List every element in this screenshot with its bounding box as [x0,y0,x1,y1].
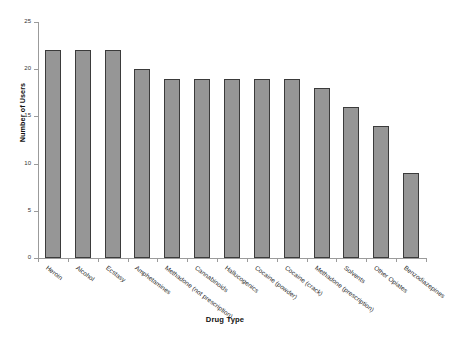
x-axis-category-label: Ecstasy [104,264,126,283]
plot-area: 0510152025 [38,22,426,258]
x-axis-tick [366,258,367,262]
x-axis-tick [277,258,278,262]
bar [75,50,91,258]
bar [314,88,330,258]
x-axis-tick [38,258,39,262]
y-axis-tick: 10 [34,164,38,165]
x-axis-category-label: Solvents [343,264,367,285]
y-axis-tick-label: 20 [24,65,31,71]
x-axis-tick [157,258,158,262]
x-axis-tick [217,258,218,262]
x-axis-tick [336,258,337,262]
bar [254,79,270,258]
y-axis-tick: 25 [34,22,38,23]
y-axis-tick-label: 10 [24,160,31,166]
bar [284,79,300,258]
y-axis-tick: 15 [34,116,38,117]
x-axis-title: Drug Type [150,315,300,324]
x-axis-tick [307,258,308,262]
y-axis-tick-label: 0 [28,254,31,260]
y-axis-tick-label: 25 [24,18,31,24]
x-axis-tick [128,258,129,262]
x-axis-tick [187,258,188,262]
x-axis-tick [426,258,427,262]
bar [194,79,210,258]
y-axis-line [38,22,39,258]
bar [224,79,240,258]
x-axis-line [38,258,426,259]
bar [403,173,419,258]
y-axis-tick-label: 5 [28,207,31,213]
bar [373,126,389,258]
y-axis-tick: 5 [34,211,38,212]
bar [164,79,180,258]
bar-chart: Number of Users 0510152025 HeroinAlcohol… [0,0,452,340]
bar [134,69,150,258]
bar [45,50,61,258]
bar [343,107,359,258]
x-axis-category-label: Alcohol [75,264,96,282]
x-axis-category-label: Benzodiazepines [403,264,447,299]
x-axis-tick [68,258,69,262]
bar [105,50,121,258]
x-axis-category-label: Heroin [45,264,64,281]
x-axis-tick [247,258,248,262]
x-axis-tick [396,258,397,262]
x-axis-tick [98,258,99,262]
y-axis-tick: 20 [34,69,38,70]
y-axis-tick-label: 15 [24,112,31,118]
